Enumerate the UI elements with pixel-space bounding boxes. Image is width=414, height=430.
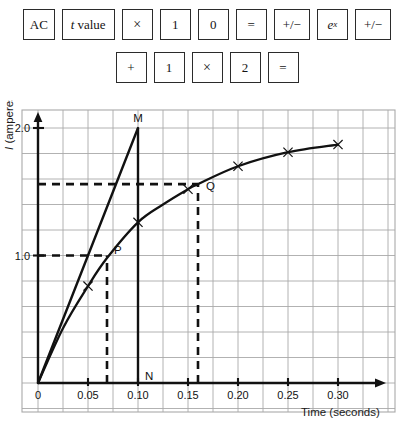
grid-lines xyxy=(22,110,395,412)
key-zero[interactable]: 0 xyxy=(198,9,229,40)
x-tick-label: 0.15 xyxy=(177,389,198,401)
x-tick-label: 0 xyxy=(35,389,41,401)
x-tick-label: 0.25 xyxy=(277,389,298,401)
x-tick-label: 0.10 xyxy=(127,389,148,401)
key-plus[interactable]: + xyxy=(116,52,147,83)
grid-border xyxy=(22,110,395,412)
key-t-value-text-part: value xyxy=(77,18,105,31)
key-times-2[interactable]: × xyxy=(192,52,223,83)
point-Q-label: Q xyxy=(206,180,215,192)
axis-tick-labels: 00.050.100.150.200.250.301.02.0 xyxy=(15,122,349,401)
point-M-label: M xyxy=(133,112,143,124)
key-one-2[interactable]: 1 xyxy=(154,52,185,83)
y-tick-label: 2.0 xyxy=(15,122,30,134)
x-tick-label: 0.20 xyxy=(227,389,248,401)
key-t-value[interactable]: tvalue xyxy=(62,9,115,40)
keystroke-row-2: +1×2= xyxy=(0,52,414,83)
key-equals-2[interactable]: = xyxy=(268,52,299,83)
key-one-1[interactable]: 1 xyxy=(160,9,191,40)
key-exp[interactable]: ex xyxy=(317,9,348,40)
x-tick-label: 0.30 xyxy=(327,389,348,401)
key-t-value-italic-part: t xyxy=(71,18,78,31)
y-axis-arrowhead xyxy=(34,112,43,122)
calculator-keystroke-sequence: ACtvalue×10=+/−ex+/− +1×2= xyxy=(0,0,414,100)
plot-frame xyxy=(22,110,395,412)
keystroke-row-1: ACtvalue×10=+/−ex+/− xyxy=(0,9,414,40)
y-axis-title: I (amperes) xyxy=(3,100,15,150)
y-tick-label: 1.0 xyxy=(15,250,30,262)
x-tick-label: 0.05 xyxy=(77,389,98,401)
key-plusminus-1[interactable]: +/− xyxy=(274,9,310,40)
point-N-label: N xyxy=(145,370,153,382)
key-plusminus-2[interactable]: +/− xyxy=(355,9,391,40)
key-ac[interactable]: AC xyxy=(23,9,55,40)
point-P-label: P xyxy=(114,244,122,256)
key-equals-1[interactable]: = xyxy=(236,9,267,40)
key-exp-exponent: x xyxy=(333,20,337,29)
graph-svg: 00.050.100.150.200.250.301.02.0 MNPQ Tim… xyxy=(0,100,414,430)
x-axis-title: Time (seconds) xyxy=(301,406,380,418)
key-two[interactable]: 2 xyxy=(230,52,261,83)
x-axis-arrowhead xyxy=(375,379,386,388)
current-vs-time-graph: 00.050.100.150.200.250.301.02.0 MNPQ Tim… xyxy=(0,100,414,430)
key-times-1[interactable]: × xyxy=(122,9,153,40)
